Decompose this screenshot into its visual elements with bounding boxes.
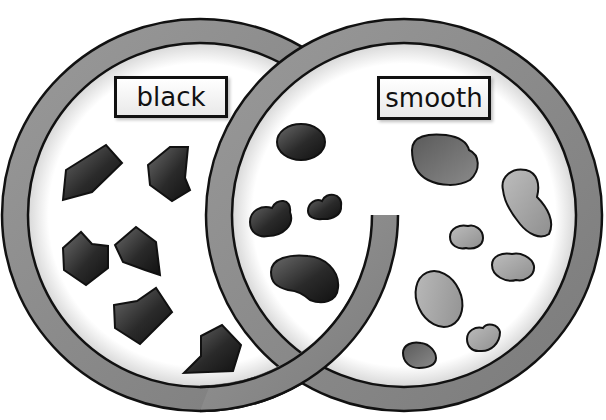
set-label-black: black: [114, 76, 228, 118]
grey-blob-4: [492, 253, 534, 280]
venn-diagram: black smooth: [0, 0, 606, 420]
set-label-smooth: smooth: [377, 76, 491, 120]
set-label-black-text: black: [136, 82, 205, 112]
set-label-smooth-text: smooth: [385, 83, 482, 113]
grey-blob-3: [450, 225, 483, 248]
dark-blob-1: [277, 124, 325, 160]
